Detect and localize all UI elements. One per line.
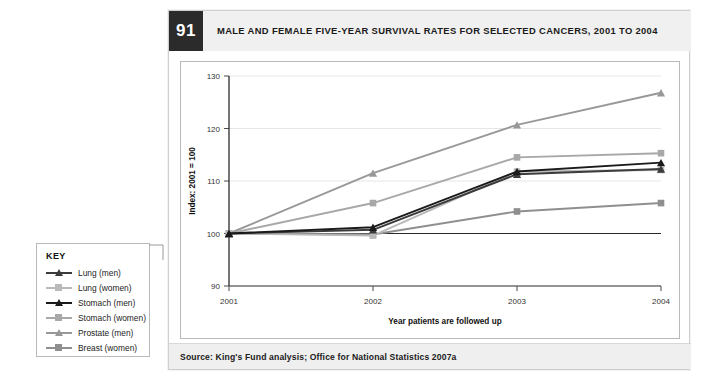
- legend-square-marker-icon: [46, 312, 72, 323]
- figure-title-bar: 91 MALE AND FEMALE FIVE-YEAR SURVIVAL RA…: [169, 11, 691, 51]
- x-axis-title: Year patients are followed up: [388, 317, 501, 326]
- y-axis-tick-label: 130: [207, 72, 221, 81]
- y-axis-title: Index: 2001 = 100: [188, 147, 197, 215]
- data-point-square-marker-icon: [658, 200, 665, 207]
- data-point-square-marker-icon: [514, 208, 521, 215]
- legend-title: KEY: [46, 251, 149, 261]
- legend-items: Lung (men)Lung (women)Stomach (men)Stoma…: [46, 265, 149, 355]
- legend-item-label: Stomach (men): [78, 298, 135, 308]
- data-point-square-marker-icon: [370, 200, 377, 207]
- legend-item-label: Stomach (women): [78, 313, 146, 323]
- legend-item-label: Lung (men): [78, 268, 121, 278]
- x-axis-tick-label: 2001: [220, 297, 238, 306]
- legend-triangle-marker-icon: [46, 267, 72, 278]
- legend-item-label: Prostate (men): [78, 328, 133, 338]
- legend-item: Stomach (women): [46, 310, 149, 325]
- legend-triangle-marker-icon: [46, 327, 72, 338]
- line-chart: 901001101201302001200220032004Year patie…: [181, 62, 679, 338]
- legend-item-label: Breast (women): [78, 343, 137, 353]
- legend-item: Prostate (men): [46, 325, 149, 340]
- data-point-square-marker-icon: [658, 150, 665, 157]
- figure-card: 91 MALE AND FEMALE FIVE-YEAR SURVIVAL RA…: [168, 10, 690, 370]
- legend-square-marker-icon: [46, 282, 72, 293]
- figure-source-bar: Source: King's Fund analysis; Office for…: [169, 343, 691, 369]
- legend-item: Stomach (men): [46, 295, 149, 310]
- legend-square-marker-icon: [46, 342, 72, 353]
- figure-number-badge: 91: [169, 11, 203, 51]
- series-line: [229, 93, 661, 234]
- x-axis-tick-label: 2003: [508, 297, 526, 306]
- y-axis-tick-label: 90: [211, 282, 220, 291]
- legend-item-label: Lung (women): [78, 283, 132, 293]
- y-axis-tick-label: 100: [207, 230, 221, 239]
- y-axis-tick-label: 110: [207, 177, 220, 186]
- legend-item: Breast (women): [46, 340, 149, 355]
- series-lung-men: [225, 165, 665, 237]
- source-note: Source: King's Fund analysis; Office for…: [169, 352, 457, 362]
- series-line: [229, 153, 661, 233]
- chart-legend-key: KEY Lung (men)Lung (women)Stomach (men)S…: [36, 243, 150, 357]
- figure-title: MALE AND FEMALE FIVE-YEAR SURVIVAL RATES…: [203, 25, 658, 36]
- legend-triangle-marker-icon: [46, 297, 72, 308]
- x-axis-tick-label: 2002: [364, 297, 382, 306]
- legend-item: Lung (women): [46, 280, 149, 295]
- y-axis-tick-label: 120: [207, 125, 221, 134]
- x-axis-tick-label: 2004: [652, 297, 670, 306]
- data-point-square-marker-icon: [514, 154, 521, 161]
- series-prostate-men: [225, 89, 665, 237]
- legend-item: Lung (men): [46, 265, 149, 280]
- plot-area-card: 901001101201302001200220032004Year patie…: [180, 61, 680, 339]
